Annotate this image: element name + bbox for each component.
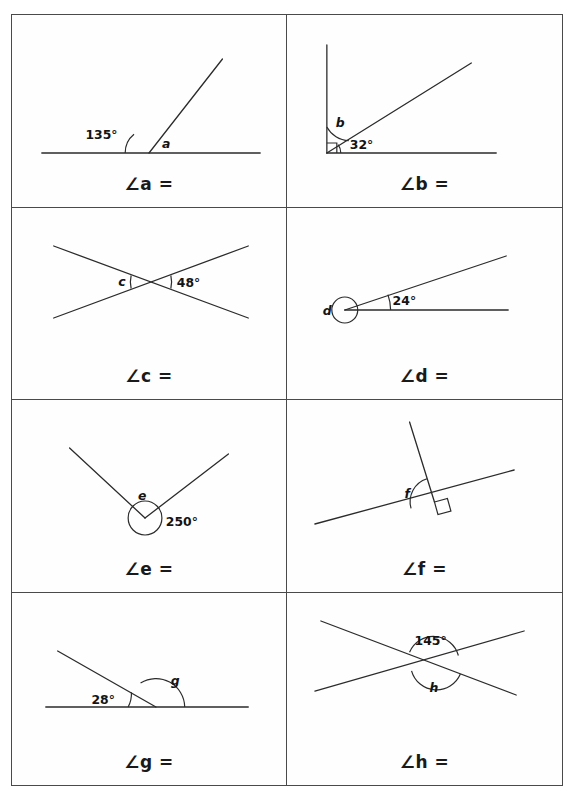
figure-g: 28° g [12,593,286,739]
angle-value-145: 145° [415,632,447,647]
answer-prompt-e: ∠e = [12,559,286,579]
figure-e: e 250° [12,400,286,546]
angle-value-32: 32° [350,137,374,152]
angle-value-48: 48° [177,274,200,289]
figure-b: b 32° [287,15,562,161]
problem-cell-c: c 48° ∠c = [12,208,287,401]
problem-cell-f: f ∠f = [287,400,562,593]
angle-value-250: 250° [166,514,198,529]
problem-cell-h: 145° h ∠h = [287,593,562,786]
problem-cell-b: b 32° ∠b = [287,15,562,208]
answer-prompt-c: ∠c = [12,366,286,386]
angle-label-d: d [323,302,333,317]
answer-prompt-a: ∠a = [12,174,286,194]
figure-f: f [287,400,562,546]
angle-value-135: 135° [85,127,117,142]
problem-cell-a: 135° a ∠a = [12,15,287,208]
problem-cell-d: d 24° ∠d = [287,208,562,401]
answer-prompt-h: ∠h = [287,752,562,772]
angle-label-e: e [138,488,146,503]
angle-label-h: h [429,679,438,694]
angle-label-c: c [118,273,126,288]
figure-c: c 48° [12,208,286,354]
problem-cell-e: e 250° ∠e = [12,400,287,593]
answer-prompt-g: ∠g = [12,752,286,772]
answer-prompt-f: ∠f = [287,559,562,579]
figure-h: 145° h [287,593,562,739]
figure-a: 135° a [12,15,286,161]
angle-label-g: g [171,672,180,687]
angle-value-24: 24° [393,292,417,307]
angle-label-b: b [336,115,345,130]
answer-prompt-b: ∠b = [287,174,562,194]
answer-prompt-d: ∠d = [287,366,562,386]
figure-d: d 24° [287,208,562,354]
problem-cell-g: 28° g ∠g = [12,593,287,786]
angle-label-a: a [162,136,170,151]
angle-value-28: 28° [91,691,114,706]
worksheet-grid: 135° a ∠a = b 32° ∠b = [11,14,563,786]
